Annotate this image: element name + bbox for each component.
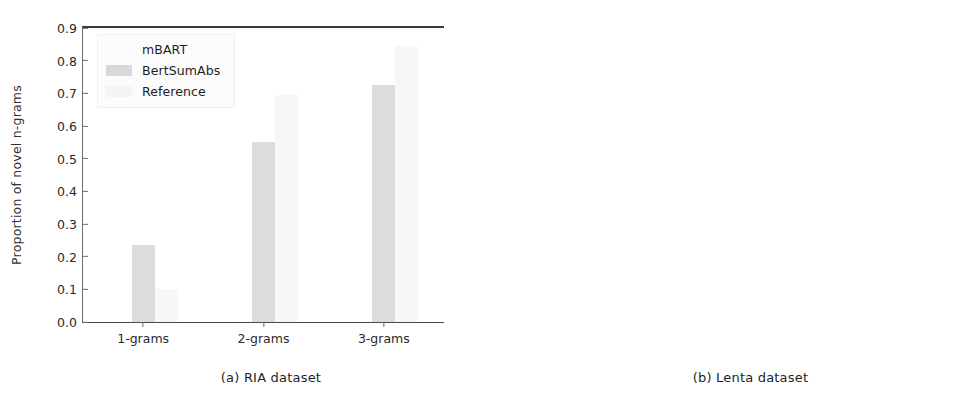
y-axis-tick-0.7: 0.7 [57, 86, 83, 101]
bar-group-3-grams [344, 28, 424, 322]
x-axis-label-1-grams: 1-grams [117, 331, 169, 346]
legend-swatch-mbart-icon [106, 44, 132, 55]
legend-swatch-reference-icon [106, 86, 132, 97]
y-axis-tick-mark [83, 27, 88, 28]
y-axis-tick-0.9: 0.9 [57, 21, 83, 36]
x-axis-label-2-grams: 2-grams [238, 331, 290, 346]
y-axis-tick-mark [83, 93, 88, 94]
legend-swatch-bertsumabs-icon [106, 65, 132, 76]
y-axis-tick-label: 0.4 [57, 184, 83, 199]
y-axis-tick-label: 0.5 [57, 151, 83, 166]
y-axis-tick-mark [83, 256, 88, 257]
y-axis-tick-label: 0.7 [57, 86, 83, 101]
y-axis-tick-0.0: 0.0 [57, 315, 83, 330]
x-axis-tick-mark [383, 322, 384, 327]
y-axis-tick-mark [83, 158, 88, 159]
panel-caption-b: (b) Lenta dataset [482, 370, 964, 385]
legend-row-mbart-a: mBART [106, 41, 220, 58]
y-axis-tick-0.1: 0.1 [57, 282, 83, 297]
legend-label-bertsumabs: BertSumAbs [142, 63, 220, 78]
y-axis-tick-mark [83, 60, 88, 61]
bar-bertsumabs-2-grams [252, 142, 275, 322]
figure-container: Proportion of novel n-grams mBART BertSu… [0, 0, 965, 403]
bar-bertsumabs-1-grams [132, 245, 155, 322]
y-axis-tick-mark [83, 289, 88, 290]
y-axis-tick-0.6: 0.6 [57, 119, 83, 134]
plot-area-a: mBART BertSumAbs Reference 0.00.10.20.30… [82, 26, 444, 323]
bar-bertsumabs-3-grams [372, 85, 395, 322]
legend-a: mBART BertSumAbs Reference [97, 34, 235, 108]
chart-panel-a: Proportion of novel n-grams mBART BertSu… [0, 0, 482, 403]
x-axis-tick-mark [263, 322, 264, 327]
y-axis-tick-label: 0.6 [57, 119, 83, 134]
panel-caption-a: (a) RIA dataset [0, 370, 482, 385]
y-axis-tick-0.8: 0.8 [57, 53, 83, 68]
bar-reference-3-grams [395, 46, 418, 322]
y-axis-tick-label: 0.1 [57, 282, 83, 297]
y-axis-label-a: Proportion of novel n-grams [8, 30, 26, 320]
y-axis-tick-label: 0.0 [57, 315, 83, 330]
y-axis-tick-mark [83, 191, 88, 192]
bar-reference-2-grams [275, 95, 298, 322]
x-axis-tick-mark [143, 322, 144, 327]
y-axis-tick-0.4: 0.4 [57, 184, 83, 199]
y-axis-tick-label: 0.8 [57, 53, 83, 68]
y-axis-tick-mark [83, 223, 88, 224]
bar-group-2-grams [224, 28, 304, 322]
y-axis-tick-0.2: 0.2 [57, 249, 83, 264]
y-axis-tick-label: 0.9 [57, 21, 83, 36]
bar-reference-1-grams [155, 289, 178, 322]
y-axis-tick-mark [83, 321, 88, 322]
y-axis-tick-mark [83, 125, 88, 126]
y-axis-tick-label: 0.2 [57, 249, 83, 264]
y-axis-tick-0.5: 0.5 [57, 151, 83, 166]
legend-row-bertsumabs-a: BertSumAbs [106, 62, 220, 79]
legend-label-mbart: mBART [142, 42, 187, 57]
chart-panel-b: mBART BertSumAbs Reference 0.00.10.20.30… [482, 0, 964, 403]
y-axis-tick-0.3: 0.3 [57, 217, 83, 232]
legend-row-reference-a: Reference [106, 83, 220, 100]
x-axis-label-3-grams: 3-grams [358, 331, 410, 346]
legend-label-reference: Reference [142, 84, 206, 99]
y-axis-tick-label: 0.3 [57, 217, 83, 232]
